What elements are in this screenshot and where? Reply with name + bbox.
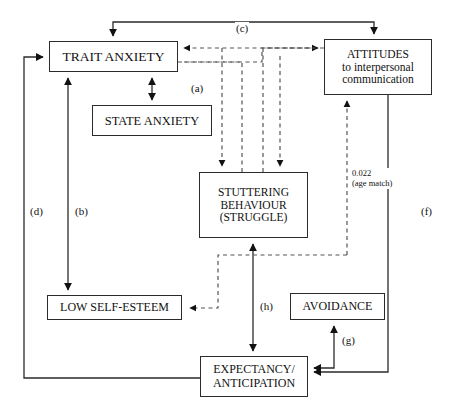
edge-g-expectancy-to-avoidance [314, 326, 334, 368]
edge-label-h: (h) [259, 300, 274, 312]
stat-annotation-note: (age match) [352, 178, 392, 188]
edge-label-d: (d) [29, 205, 44, 217]
node-state-anxiety[interactable]: STATE ANXIETY [92, 105, 212, 136]
stat-annotation: 0.022 (age match) [351, 168, 393, 189]
stat-annotation-value: 0.022 [352, 168, 392, 178]
edge-dashed-trait-to-attitudes [178, 48, 318, 62]
node-trait-anxiety[interactable]: TRAIT ANXIETY [49, 41, 178, 72]
node-avoidance[interactable]: AVOIDANCE [290, 293, 385, 320]
node-stuttering-line-2: (STRUGGLE) [220, 211, 288, 224]
node-expectancy-line-1: ANTICIPATION [213, 377, 295, 390]
edge-label-c: (c) [235, 22, 249, 34]
node-expectancy-anticipation[interactable]: EXPECTANCY/ ANTICIPATION [200, 356, 308, 397]
node-avoidance-line-0: AVOIDANCE [303, 300, 373, 313]
node-trait-anxiety-line-0: TRAIT ANXIETY [62, 49, 164, 64]
node-stuttering-line-1: BEHAVIOUR [220, 199, 286, 212]
node-stuttering-behaviour[interactable]: STUTTERING BEHAVIOUR (STRUGGLE) [199, 172, 308, 238]
edge-label-f: (f) [420, 205, 433, 217]
node-stuttering-line-0: STUTTERING [218, 186, 289, 199]
node-attitudes-line-2: communication [342, 73, 414, 86]
node-low-self-esteem-line-0: LOW SELF-ESTEEM [60, 301, 169, 314]
node-attitudes-line-0: ATTITUDES [347, 48, 409, 61]
node-attitudes[interactable]: ATTITUDES to interpersonal communication [324, 39, 432, 95]
edge-f-attitudes-to-expectancy [314, 95, 388, 372]
edge-dashed-stuttering-to-attitudes [263, 48, 318, 172]
node-state-anxiety-line-0: STATE ANXIETY [105, 114, 199, 128]
diagram-canvas: TRAIT ANXIETY STATE ANXIETY ATTITUDES to… [0, 0, 452, 419]
edge-label-a: (a) [190, 82, 204, 94]
node-low-self-esteem[interactable]: LOW SELF-ESTEEM [47, 295, 182, 320]
node-attitudes-line-1: to interpersonal [342, 61, 414, 74]
edge-label-g: (g) [341, 334, 356, 346]
node-expectancy-line-0: EXPECTANCY/ [213, 363, 295, 376]
edge-label-b: (b) [74, 205, 89, 217]
